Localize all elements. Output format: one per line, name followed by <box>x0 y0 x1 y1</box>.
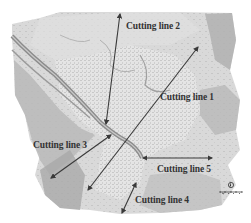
cutting-line-5-label: Cutting line 5 <box>157 164 211 174</box>
cutting-line-3-label: Cutting line 3 <box>33 140 87 150</box>
cutting-line-2-label: Cutting line 2 <box>126 21 180 31</box>
terrain-base <box>12 12 240 214</box>
cutting-line-4-label: Cutting line 4 <box>135 195 189 205</box>
topographic-map <box>0 0 251 223</box>
cutting-line-1-label: Cutting line 1 <box>160 92 214 102</box>
